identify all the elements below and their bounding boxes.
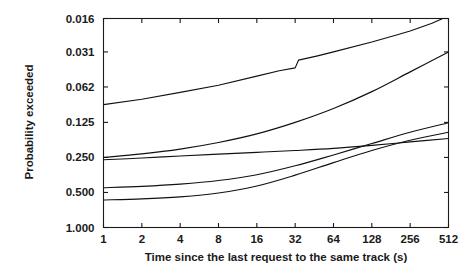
y-tick-label: 1.000 xyxy=(66,222,95,234)
y-axis-label: Probability exceeded xyxy=(23,64,35,179)
x-tick-label: 128 xyxy=(362,233,382,245)
x-axis-ticks xyxy=(104,19,449,228)
y-tick-label: 0.062 xyxy=(66,81,95,93)
x-tick-label: 512 xyxy=(439,233,458,245)
y-tick-label: 0.500 xyxy=(66,186,95,198)
x-tick-label: 1 xyxy=(100,233,107,245)
x-tick-label: 32 xyxy=(289,233,302,245)
probability-exceeded-chart: 1248163264128256512 0.0160.0310.0620.125… xyxy=(0,0,474,280)
y-axis-ticks xyxy=(104,19,449,228)
y-tick-label: 0.031 xyxy=(66,46,95,58)
y-tick-label: 0.250 xyxy=(66,151,95,163)
x-axis-tick-labels: 1248163264128256512 xyxy=(100,233,458,245)
x-tick-label: 16 xyxy=(250,233,263,245)
x-tick-label: 256 xyxy=(401,233,420,245)
y-tick-label: 0.125 xyxy=(66,116,95,128)
curve-curve-4 xyxy=(104,123,449,188)
data-curves xyxy=(104,16,449,200)
curve-curve-1 xyxy=(104,16,449,105)
y-axis-tick-labels: 0.0160.0310.0620.1250.2500.5001.000 xyxy=(66,13,95,234)
x-tick-label: 64 xyxy=(327,233,340,245)
curve-curve-2 xyxy=(104,52,449,157)
curve-curve-5 xyxy=(104,132,449,200)
x-tick-label: 8 xyxy=(215,233,222,245)
x-axis-label: Time since the last request to the same … xyxy=(145,251,408,263)
plot-frame xyxy=(104,19,449,228)
curve-curve-3 xyxy=(104,139,449,160)
y-tick-label: 0.016 xyxy=(66,13,95,25)
x-tick-label: 4 xyxy=(177,233,184,245)
x-tick-label: 2 xyxy=(139,233,145,245)
